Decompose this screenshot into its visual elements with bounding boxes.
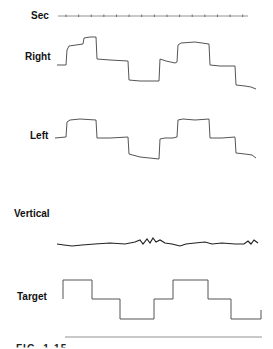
traces <box>55 37 262 337</box>
left-trace <box>55 119 256 159</box>
target-trace <box>63 280 261 319</box>
vertical-trace <box>57 238 258 246</box>
right-trace <box>57 37 256 89</box>
eye-movement-chart <box>0 0 273 349</box>
time-axis <box>58 15 248 18</box>
